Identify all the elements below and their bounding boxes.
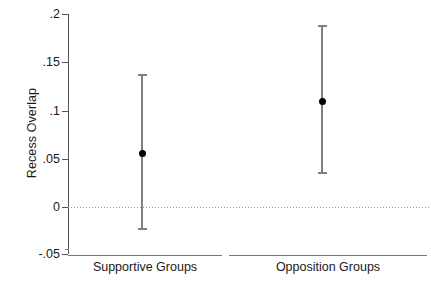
x-axis-origin-cap <box>65 249 69 250</box>
y-tick-mark-1 <box>62 62 68 63</box>
x-category-label-supportive-groups: Supportive Groups <box>65 259 225 275</box>
errorbar-lower-cap-opposition <box>318 172 327 174</box>
y-tick-label-1-wrap: .15 <box>0 56 60 68</box>
y-axis-line <box>68 14 69 254</box>
y-tick-label-5: -.05 <box>6 248 60 260</box>
data-point-supportive-groups <box>139 150 146 157</box>
y-axis-title: Recess Overlap <box>25 53 39 213</box>
y-tick-label-2: .1 <box>6 105 60 117</box>
y-tick-label-2-wrap: .1 <box>0 105 60 117</box>
y-tick-label-1: .15 <box>6 56 60 68</box>
y-tick-label-4-wrap: 0 <box>0 201 60 213</box>
y-tick-label-4: 0 <box>6 201 60 213</box>
y-tick-label-0-wrap: .2 <box>0 8 60 20</box>
x-axis-segment-opposition <box>229 255 427 256</box>
y-tick-mark-3 <box>62 159 68 160</box>
y-tick-label-5-wrap: -.05 <box>0 248 60 260</box>
y-tick-mark-2 <box>62 111 68 112</box>
x-category-label-opposition-groups: Opposition Groups <box>248 259 408 275</box>
recess-overlap-chart: Recess Overlap .2 .15 .1 .05 0 -.05 Supp… <box>0 0 431 284</box>
zero-reference-line <box>68 207 430 208</box>
y-tick-label-3: .05 <box>6 153 60 165</box>
y-tick-mark-0 <box>62 14 68 15</box>
data-point-opposition-groups <box>319 98 326 105</box>
y-tick-label-0: .2 <box>6 8 60 20</box>
x-axis-segment-supportive <box>68 255 222 256</box>
y-tick-label-3-wrap: .05 <box>0 153 60 165</box>
errorbar-lower-cap-supportive <box>138 228 147 230</box>
